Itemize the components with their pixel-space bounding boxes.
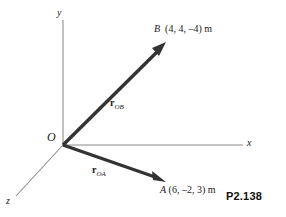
coordinate-axes-and-vectors-svg [0, 0, 286, 217]
vector-roa-label: rOA [92, 165, 106, 178]
point-a-coordinates: (6, –2, 3) m [169, 184, 216, 195]
z-axis-label: z [6, 196, 10, 206]
vector-roa-subscript: OA [96, 170, 105, 178]
vector-roa-shaft [63, 145, 155, 177]
point-a-label: A (6, –2, 3) m [160, 185, 216, 195]
figure-number: P2.138 [226, 190, 262, 202]
point-b-coordinates: (4, 4, –4) m [165, 23, 212, 34]
y-axis-label: y [57, 8, 61, 18]
vector-diagram-figure: y x z O B (4, 4, –4) m A (6, –2, 3) m rO… [0, 0, 286, 217]
point-b-label: B (4, 4, –4) m [154, 24, 212, 34]
x-axis-label: x [247, 138, 251, 148]
vector-rob-subscript: OB [114, 103, 123, 111]
z-axis-line [16, 145, 63, 196]
origin-label: O [47, 131, 56, 143]
vector-rob-label: rOB [110, 98, 124, 111]
vector-roa-arrowhead [152, 171, 166, 182]
